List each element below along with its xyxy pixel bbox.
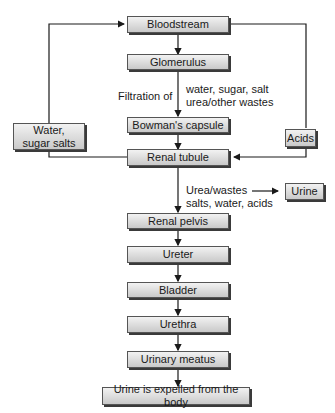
node-renal-pelvis: Renal pelvis xyxy=(127,213,229,229)
node-ureter: Ureter xyxy=(127,246,229,263)
node-urine-expelled: Urine is expelled from the body xyxy=(102,387,250,405)
label-wastes-1: Urea/wastes xyxy=(186,184,247,197)
node-urinary-meatus: Urinary meatus xyxy=(127,351,229,368)
node-renal-tubule: Renal tubule xyxy=(127,149,229,166)
node-acids: Acids xyxy=(285,129,316,147)
node-bladder: Bladder xyxy=(127,282,229,298)
node-urine: Urine xyxy=(285,183,324,200)
label-filtered-2: urea/other wastes xyxy=(186,96,273,109)
node-urethra: Urethra xyxy=(127,316,229,333)
node-bloodstream: Bloodstream xyxy=(127,16,229,33)
node-glomerulus: Glomerulus xyxy=(127,54,229,70)
label-wastes-2: salts, water, acids xyxy=(186,197,273,210)
node-bowmans-capsule: Bowman's capsule xyxy=(127,117,229,133)
node-water-sugar-salts: Water, sugar salts xyxy=(13,123,85,150)
label-filtered-1: water, sugar, salt xyxy=(186,83,269,96)
label-filtration-of: Filtration of xyxy=(118,90,172,103)
